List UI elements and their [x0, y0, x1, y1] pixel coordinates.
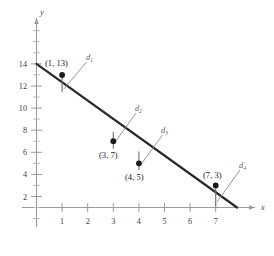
y-axis-arrowhead — [34, 18, 39, 24]
point-label-1-13: (1, 13) — [45, 58, 68, 68]
x-tick-label-7: 7 — [214, 217, 218, 226]
x-tick-label-5: 5 — [162, 217, 166, 226]
deviation-label-d1: d1 — [86, 53, 93, 63]
data-point-3-7[interactable] — [110, 138, 116, 144]
x-tick-label-6: 6 — [188, 217, 192, 226]
y-tick-label-4: 4 — [23, 170, 27, 179]
deviation-label-d4-subscript: 4 — [243, 165, 246, 171]
point-labels: (1, 13) (3, 7) (4, 5) (7, 3) — [45, 58, 222, 182]
data-points — [59, 72, 218, 188]
data-point-4-5[interactable] — [136, 160, 142, 166]
deviation-segments — [62, 77, 216, 206]
deviation-label-d3-subscript: 3 — [164, 130, 168, 136]
scatter-plot-with-regression-line: y x 2 4 6 8 10 12 14 1 2 3 4 5 6 7 (1, 1… — [0, 0, 274, 256]
y-tick-labels: 2 4 6 8 10 12 14 — [19, 60, 27, 202]
deviation-label-d1-subscript: 1 — [90, 57, 93, 63]
y-tick-label-2: 2 — [23, 193, 27, 202]
point-label-7-3: (7, 3) — [203, 170, 222, 180]
x-axis-label: x — [260, 202, 265, 212]
deviation-label-d3: d3 — [161, 126, 168, 136]
x-tick-label-3: 3 — [111, 217, 115, 226]
y-tick-label-6: 6 — [23, 148, 27, 157]
y-tick-label-8: 8 — [23, 126, 27, 135]
x-tick-labels: 1 2 3 4 5 6 7 — [60, 217, 218, 226]
leader-d2 — [115, 113, 137, 143]
data-point-7-3[interactable] — [213, 183, 219, 189]
data-point-1-13[interactable] — [59, 72, 65, 78]
y-tick-label-14: 14 — [19, 60, 27, 69]
y-tick-label-10: 10 — [19, 104, 27, 113]
y-tick-label-12: 12 — [19, 82, 27, 91]
point-label-4-5: (4, 5) — [125, 172, 144, 182]
x-tick-label-1: 1 — [60, 217, 64, 226]
point-label-3-7: (3, 7) — [99, 150, 118, 160]
x-axis-arrowhead — [249, 205, 255, 210]
deviation-label-d2: d2 — [135, 104, 142, 114]
figure-container: y x 2 4 6 8 10 12 14 1 2 3 4 5 6 7 (1, 1… — [0, 0, 274, 256]
deviation-label-d4: d4 — [239, 161, 246, 171]
y-axis-label: y — [39, 7, 44, 17]
x-tick-label-2: 2 — [86, 217, 90, 226]
deviation-label-d2-subscript: 2 — [139, 108, 142, 114]
x-tick-label-4: 4 — [137, 217, 141, 226]
leader-lines — [64, 62, 240, 202]
